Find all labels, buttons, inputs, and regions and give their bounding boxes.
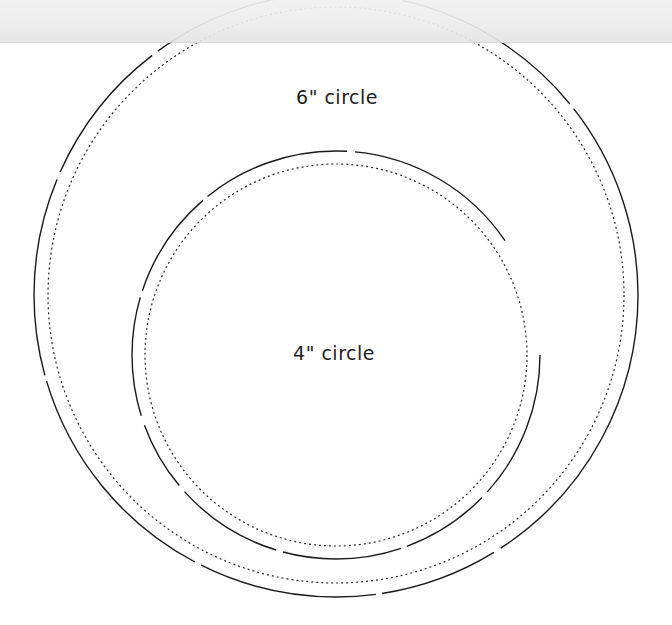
top-overlay-band	[0, 0, 672, 43]
large-circle-label: 6" circle	[296, 86, 378, 108]
small-circle-label: 4" circle	[293, 342, 375, 364]
circle-template-diagram: 6" circle 4" circle	[0, 0, 672, 625]
